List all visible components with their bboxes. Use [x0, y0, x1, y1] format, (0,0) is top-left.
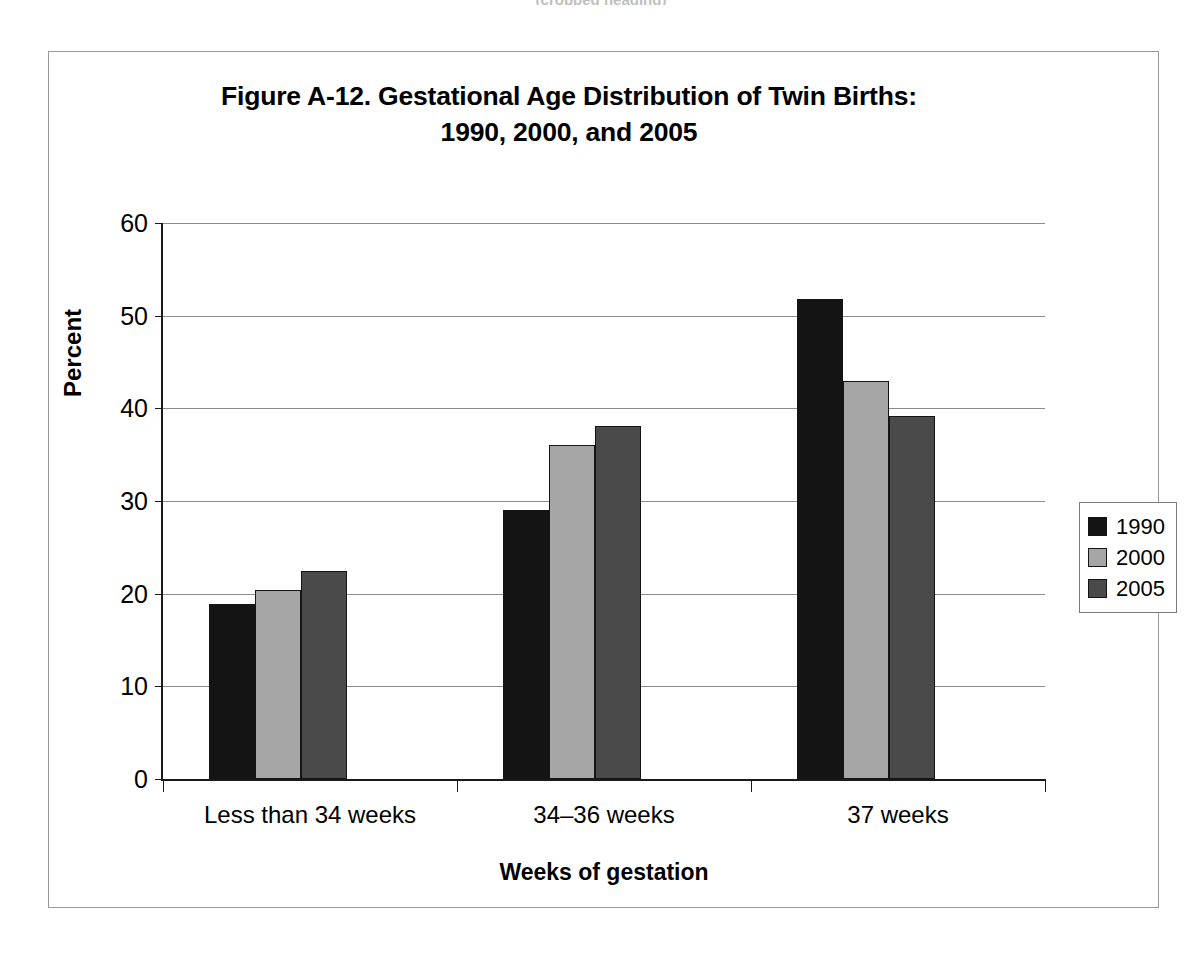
bar-2000-2 [549, 445, 595, 779]
bar-2005-1 [301, 571, 347, 779]
y-gridline [163, 316, 1045, 317]
legend-swatch-icon [1088, 548, 1107, 567]
y-tick-mark [155, 501, 163, 502]
chart-title-line-1: Figure A-12. Gestational Age Distributio… [109, 78, 1029, 114]
y-tick-label: 0 [134, 765, 148, 794]
y-tick-label: 60 [120, 209, 148, 238]
y-tick-mark [155, 686, 163, 687]
y-tick-mark [155, 779, 163, 780]
x-tick-mark [1045, 779, 1046, 792]
x-tick-mark [751, 779, 752, 792]
legend-item-2005[interactable]: 2005 [1088, 573, 1165, 604]
page-header-strip: (cropped heading) [0, 0, 1202, 5]
bar-1990-1 [209, 604, 255, 779]
x-tick-mark [457, 779, 458, 792]
bar-2000-1 [255, 590, 301, 779]
bar-1990-2 [503, 510, 549, 779]
chart-title: Figure A-12. Gestational Age Distributio… [109, 78, 1029, 151]
x-tick-mark [163, 779, 164, 792]
bar-2005-2 [595, 426, 641, 779]
y-tick-mark [155, 223, 163, 224]
legend-swatch-icon [1088, 517, 1107, 536]
legend-swatch-icon [1088, 579, 1107, 598]
bar-1990-3 [797, 299, 843, 779]
legend-item-1990[interactable]: 1990 [1088, 511, 1165, 542]
y-tick-label: 10 [120, 672, 148, 701]
x-group-label: 34–36 weeks [533, 801, 674, 829]
x-group-label: 37 weeks [847, 801, 948, 829]
legend-label: 2000 [1116, 545, 1165, 571]
page-header-text: (cropped heading) [0, 0, 1202, 5]
y-tick-label: 20 [120, 579, 148, 608]
y-tick-mark [155, 594, 163, 595]
bar-2000-3 [843, 381, 889, 779]
chart-legend: 199020002005 [1079, 502, 1177, 613]
y-axis-title: Percent [59, 309, 87, 397]
legend-label: 1990 [1116, 514, 1165, 540]
figure-frame: Figure A-12. Gestational Age Distributio… [48, 51, 1159, 908]
chart-title-line-2: 1990, 2000, and 2005 [109, 114, 1029, 150]
x-axis-title: Weeks of gestation [163, 859, 1045, 886]
y-tick-label: 30 [120, 487, 148, 516]
y-tick-mark [155, 408, 163, 409]
legend-label: 2005 [1116, 576, 1165, 602]
x-group-label: Less than 34 weeks [204, 801, 416, 829]
y-tick-mark [155, 316, 163, 317]
y-gridline [163, 223, 1045, 224]
y-gridline [163, 408, 1045, 409]
bar-2005-3 [889, 416, 935, 779]
y-tick-label: 40 [120, 394, 148, 423]
plot-area: 0102030405060Less than 34 weeks34–36 wee… [161, 223, 1045, 781]
y-tick-label: 50 [120, 301, 148, 330]
legend-item-2000[interactable]: 2000 [1088, 542, 1165, 573]
